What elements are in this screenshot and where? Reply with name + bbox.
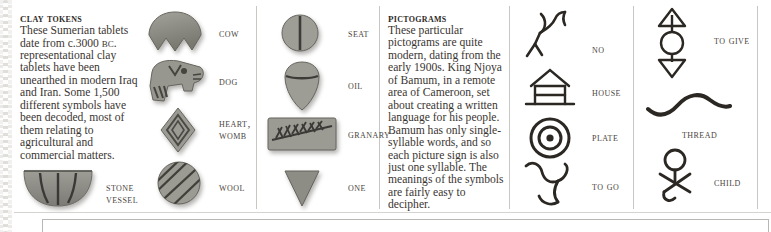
stone-vessel-label-line1: Stone — [106, 181, 134, 193]
child-label: Child — [714, 176, 741, 188]
no-label: No — [592, 43, 604, 55]
to-go-caption: To go — [592, 180, 619, 192]
dog-caption: Dog — [219, 75, 238, 87]
seat-caption: Seat — [348, 27, 369, 39]
plate-pictogram-image — [526, 116, 574, 164]
cow-caption: Cow — [219, 27, 239, 39]
one-token-image — [282, 168, 322, 212]
dog-label: Dog — [219, 75, 238, 87]
no-caption: No — [592, 43, 604, 55]
seat-token-image — [279, 13, 321, 57]
thread-pictogram-image — [644, 92, 734, 122]
house-caption: House — [592, 86, 621, 98]
house-pictogram-image — [522, 66, 578, 114]
column-divider-4 — [633, 6, 634, 209]
granary-token-image — [266, 116, 338, 156]
no-pictogram-image — [519, 8, 575, 64]
heart-womb-label-line2: womb — [219, 129, 251, 141]
oil-caption: Oil — [348, 79, 363, 91]
clay-tokens-article: Clay tokens These Sumerian tablets Large… — [20, 12, 148, 162]
seat-label: Seat — [348, 27, 369, 39]
stone-vessel-caption: Stone vessel — [106, 181, 138, 205]
heart-womb-label-line1: Heart, — [219, 117, 251, 129]
bottom-empty-frame — [42, 219, 769, 232]
child-pictogram-image — [652, 148, 702, 208]
wool-token-image — [156, 160, 202, 210]
stone-vessel-token-image — [22, 168, 94, 212]
content-plate: Clay tokens These Sumerian tablets Large… — [14, 0, 771, 214]
one-label: One — [348, 181, 366, 193]
column-divider-5 — [757, 6, 758, 209]
granary-label: Granary — [348, 128, 390, 140]
cow-token-image — [146, 10, 204, 58]
column-divider-2 — [379, 6, 380, 209]
stone-vessel-label-line2: vessel — [106, 193, 138, 205]
to-give-label: To give — [714, 34, 750, 46]
wool-label: Wool — [219, 181, 245, 193]
to-go-label: To go — [592, 180, 619, 192]
dog-token-image — [144, 58, 206, 108]
decorative-beaded-margin-dots — [3, 0, 8, 232]
granary-caption: Granary — [348, 128, 390, 140]
clay-tokens-date-line: date from c.3000 BC. — [20, 37, 148, 50]
one-caption: One — [348, 181, 366, 193]
to-go-pictogram-image — [520, 158, 578, 212]
horizontal-rule — [14, 212, 771, 213]
house-label: House — [592, 86, 621, 98]
column-divider-1 — [256, 6, 257, 209]
era-label: BC — [102, 36, 114, 50]
pictograms-heading: Pictograms — [388, 12, 504, 24]
to-give-caption: To give — [714, 34, 750, 46]
to-give-pictogram-image — [649, 6, 695, 84]
thread-label: Thread — [682, 128, 717, 140]
circa-abbreviation: c. — [68, 37, 76, 50]
oil-label: Oil — [348, 79, 363, 91]
column-divider-3 — [509, 6, 510, 209]
heart-womb-token-image — [158, 106, 198, 158]
child-caption: Child — [714, 176, 741, 188]
oil-token-image — [282, 60, 322, 116]
wool-caption: Wool — [219, 181, 245, 193]
thread-caption: Thread — [682, 128, 717, 140]
plate-label: Plate — [592, 131, 618, 143]
plate-caption: Plate — [592, 131, 618, 143]
date-value: 3000 — [76, 37, 99, 50]
cow-label: Cow — [219, 27, 239, 39]
clay-tokens-heading: Clay tokens — [20, 12, 148, 24]
heart-womb-caption: Heart, womb — [219, 117, 251, 141]
pictograms-article: Pictograms These particular pictograms a… — [388, 12, 504, 212]
pictograms-body: These particular pictograms are quite mo… — [388, 25, 504, 212]
